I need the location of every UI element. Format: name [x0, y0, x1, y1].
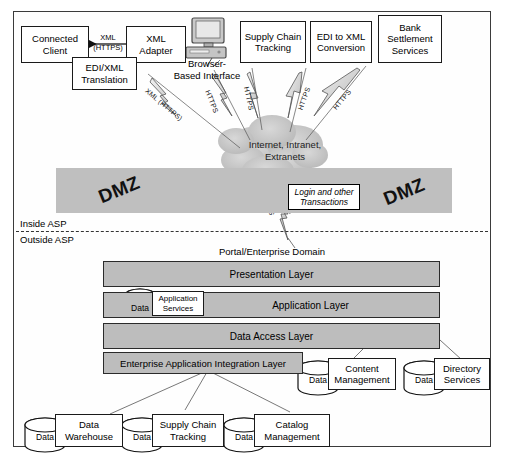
asp-boundary-line	[16, 231, 488, 232]
directory-services-data-label: Data	[404, 375, 444, 385]
supply-chain-tracking-line1: Supply Chain	[245, 31, 302, 43]
node-directory-services[interactable]: Directory Services	[434, 358, 490, 390]
data-warehouse-data-label: Data	[25, 432, 65, 442]
cloud-label: Internet, Intranet, Extranets	[230, 139, 340, 162]
note-line1: Login and other	[294, 187, 353, 198]
node-edi-xml-translation[interactable]: EDI/XML Translation	[72, 57, 137, 90]
node-data-warehouse[interactable]: Data Warehouse	[55, 414, 123, 447]
node-supply-chain-tracking-db[interactable]: Supply Chain Tracking	[152, 414, 224, 447]
node-supply-chain-tracking[interactable]: Supply Chain Tracking	[240, 21, 306, 63]
node-catalog-management[interactable]: Catalog Management	[254, 414, 330, 447]
browser-label-line1: Browser-	[166, 58, 248, 70]
application-data-label: Data	[120, 303, 160, 313]
outside-asp-label: Outside ASP	[20, 234, 74, 245]
application-layer-label: Application Layer	[272, 300, 349, 311]
edi-xml-translation-line1: EDI/XML	[81, 62, 128, 74]
application-services-line1: Application	[158, 294, 197, 304]
catalog-management-data-label: Data	[224, 432, 264, 442]
content-management-line2: Management	[334, 374, 389, 386]
node-bank-settlement-services[interactable]: Bank Settlement Services	[378, 15, 442, 63]
cloud-label-line1: Internet, Intranet,	[230, 139, 340, 151]
edi-to-xml-conversion-line2: Conversion	[317, 42, 366, 54]
browser-based-interface-label: Browser- Based Interface	[166, 58, 248, 81]
supply-chain-db-data-label: Data	[122, 432, 162, 442]
catalog-management-line1: Catalog	[264, 419, 319, 431]
layer-presentation[interactable]: Presentation Layer	[103, 261, 440, 287]
directory-services-line2: Services	[443, 374, 481, 386]
xml-adapter-line1: XML	[139, 33, 172, 45]
node-edi-to-xml-conversion[interactable]: EDI to XML Conversion	[310, 21, 372, 63]
note-line2: Transactions	[294, 197, 353, 208]
data-warehouse-line2: Warehouse	[65, 431, 113, 443]
bank-settlement-line3: Services	[387, 45, 432, 57]
edi-to-xml-conversion-line1: EDI to XML	[317, 31, 366, 43]
inside-asp-label: Inside ASP	[20, 218, 66, 229]
connected-client-line2: Client	[32, 45, 78, 57]
xml-adapter-line2: Adapter	[139, 45, 172, 57]
supply-chain-db-line2: Tracking	[160, 431, 217, 443]
data-warehouse-line1: Data	[65, 419, 113, 431]
bank-settlement-line1: Bank	[387, 22, 432, 34]
architecture-diagram: Connected Client XML Adapter EDI/XML Tra…	[0, 0, 506, 468]
node-content-management[interactable]: Content Management	[328, 358, 396, 390]
layer-data-access[interactable]: Data Access Layer	[103, 323, 440, 349]
edi-xml-translation-line2: Translation	[81, 74, 128, 86]
connected-client-line1: Connected	[32, 33, 78, 45]
cloud-label-line2: Extranets	[230, 151, 340, 163]
connector-label-xml-https: XML (HTTPS)	[90, 33, 126, 52]
login-transactions-note: Login and other Transactions	[288, 184, 360, 210]
xml-https-line2: (HTTPS)	[90, 43, 126, 53]
content-management-line1: Content	[334, 363, 389, 375]
portal-enterprise-domain-title: Portal/Enterprise Domain	[182, 246, 362, 258]
browser-label-line2: Based Interface	[166, 70, 248, 82]
directory-services-line1: Directory	[443, 363, 481, 375]
layer-eai[interactable]: Enterprise Application Integration Layer	[103, 352, 303, 374]
xml-https-line1: XML	[90, 33, 126, 43]
content-management-data-label: Data	[298, 375, 338, 385]
catalog-management-line2: Management	[264, 431, 319, 443]
bank-settlement-line2: Settlement	[387, 33, 432, 45]
supply-chain-db-line1: Supply Chain	[160, 419, 217, 431]
application-services-line2: Services	[158, 304, 197, 314]
supply-chain-tracking-line2: Tracking	[245, 42, 302, 54]
